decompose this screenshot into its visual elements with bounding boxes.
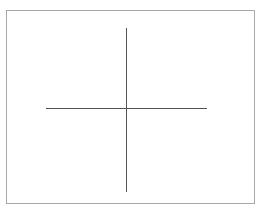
diagram-frame — [6, 10, 255, 204]
crosshair-vertical-line — [126, 28, 127, 192]
